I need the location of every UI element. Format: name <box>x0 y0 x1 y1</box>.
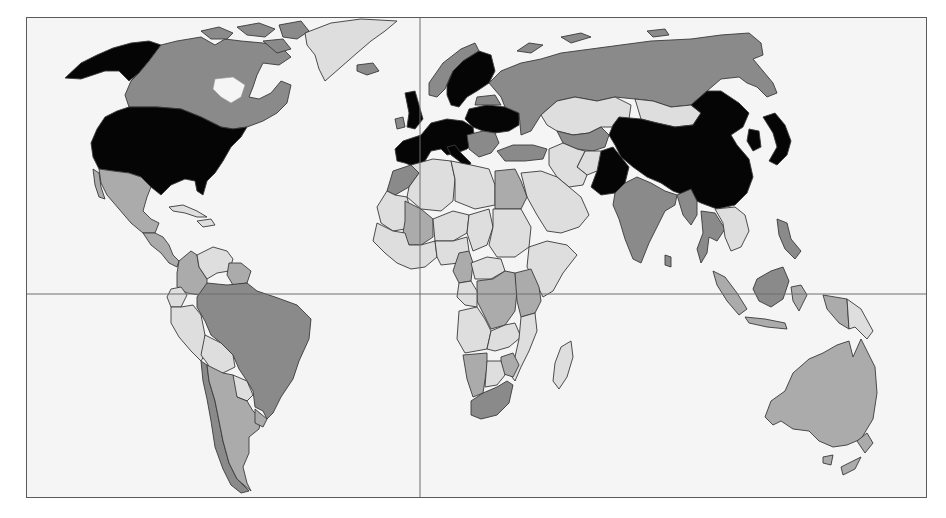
europe <box>357 43 519 169</box>
region-korea[interactable] <box>747 129 761 151</box>
region-australia[interactable] <box>765 339 877 447</box>
region-sulawesi[interactable] <box>791 285 807 311</box>
region-west-papua[interactable] <box>823 295 849 329</box>
world-map <box>26 17 927 498</box>
region-sumatra[interactable] <box>713 271 747 315</box>
region-namibia[interactable] <box>463 353 487 397</box>
region-madagascar[interactable] <box>553 341 573 389</box>
region-sudan[interactable] <box>489 209 531 257</box>
region-libya[interactable] <box>451 161 495 209</box>
region-greenland[interactable] <box>305 19 397 81</box>
region-myanmar[interactable] <box>677 189 697 225</box>
region-niger[interactable] <box>433 211 469 241</box>
region-botswana[interactable] <box>485 361 505 387</box>
region-ireland[interactable] <box>395 117 405 129</box>
region-borneo-malaysia[interactable] <box>753 267 789 307</box>
region-balkans[interactable] <box>467 131 499 157</box>
region-india[interactable] <box>613 177 677 263</box>
region-baltics-belarus[interactable] <box>475 95 501 105</box>
region-cuba[interactable] <box>169 205 207 217</box>
region-hispaniola[interactable] <box>197 219 215 227</box>
north-america <box>65 19 397 267</box>
region-philippines[interactable] <box>777 219 801 259</box>
region-sri-lanka[interactable] <box>665 255 671 267</box>
world-choropleth-map <box>27 18 927 498</box>
region-iceland[interactable] <box>357 63 379 75</box>
region-tasmania[interactable] <box>823 455 833 465</box>
south-america <box>167 247 311 493</box>
region-java[interactable] <box>745 317 787 329</box>
region-central-america[interactable] <box>143 233 179 267</box>
region-algeria[interactable] <box>407 159 455 211</box>
region-turkey[interactable] <box>497 145 547 161</box>
asia <box>489 29 801 267</box>
region-guianas[interactable] <box>227 263 251 285</box>
region-japan[interactable] <box>763 113 791 165</box>
region-papua-new-guinea[interactable] <box>847 299 873 339</box>
oceania <box>713 267 877 475</box>
